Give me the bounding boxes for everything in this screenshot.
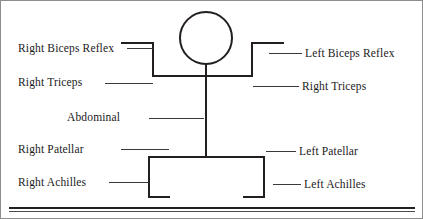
label-right-triceps: Right Triceps xyxy=(18,76,82,89)
hip-line xyxy=(148,156,265,158)
label-right-biceps-reflex: Right Biceps Reflex xyxy=(18,42,114,55)
patient-left-hand-stub xyxy=(251,42,284,44)
leader-left-biceps-reflex xyxy=(269,53,302,54)
patient-right-foot-stub xyxy=(148,196,170,198)
patient-right-hand-stub xyxy=(121,42,154,44)
label-abdominal: Abdominal xyxy=(67,111,120,124)
label-right-patellar: Right Patellar xyxy=(18,143,84,156)
label-right-triceps-right: Right Triceps xyxy=(302,80,366,93)
patient-right-leg-line xyxy=(148,156,150,198)
patient-left-arm-line xyxy=(251,42,253,77)
label-left-achilles: Left Achilles xyxy=(304,178,366,191)
reflex-diagram-page: Right Biceps Reflex Right Triceps Abdomi… xyxy=(0,0,423,219)
bottom-rule-thick xyxy=(9,207,415,209)
leader-left-patellar xyxy=(266,151,296,152)
patient-left-leg-line xyxy=(263,156,265,198)
leader-right-patellar xyxy=(121,149,169,150)
label-left-patellar: Left Patellar xyxy=(299,145,358,158)
leader-abdominal xyxy=(149,118,204,119)
patient-left-foot-stub xyxy=(243,196,265,198)
leader-right-triceps-right xyxy=(253,86,299,87)
label-right-achilles: Right Achilles xyxy=(18,176,86,189)
torso-line xyxy=(205,77,207,157)
leader-right-biceps-reflex xyxy=(127,48,153,49)
label-left-biceps-reflex: Left Biceps Reflex xyxy=(305,47,395,60)
leader-left-achilles xyxy=(273,184,301,185)
leader-right-achilles xyxy=(109,182,149,183)
head-circle xyxy=(179,11,233,65)
leader-right-triceps xyxy=(105,83,153,84)
bottom-rule-thin xyxy=(9,211,415,212)
shoulder-line xyxy=(152,75,253,77)
